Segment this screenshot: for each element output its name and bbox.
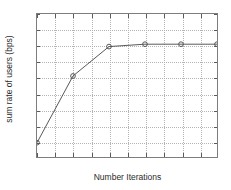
- chart-figure: sum rate of users (bps) 1516171819202122…: [0, 0, 231, 190]
- plot-area: 15161718192021222324 11.522.533.544.555.…: [36, 13, 218, 158]
- y-axis-title: sum rate of users (bps): [2, 0, 16, 158]
- x-axis-title: Number Iterations: [36, 172, 219, 182]
- series-line: [37, 44, 217, 143]
- data-series-layer: [37, 14, 217, 157]
